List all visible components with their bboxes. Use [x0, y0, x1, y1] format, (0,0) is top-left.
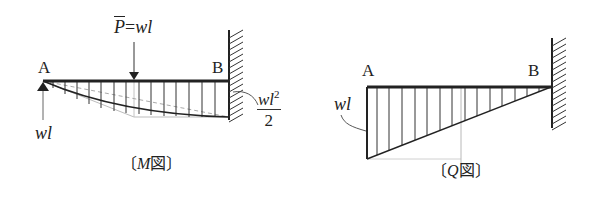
shear-value-label: wl [334, 95, 351, 113]
shear-diagonal [367, 87, 551, 159]
reaction-label: wl [35, 124, 52, 142]
fixed-end-moment-numerator: wl2 [257, 89, 281, 110]
shear-label-leader [341, 115, 366, 131]
shear-caption: 〔Q図〕 [431, 163, 491, 179]
fixed-end-moment-denominator: 2 [257, 110, 281, 129]
load-label: P=wl [114, 18, 152, 36]
moment-label-b: B [212, 59, 223, 76]
load-arrow-head-icon [129, 72, 139, 80]
diagram-canvas [0, 0, 589, 200]
moment-diagram [37, 30, 258, 122]
moment-label-a: A [38, 59, 50, 76]
load-symbol: P [114, 17, 125, 37]
shear-hatching [377, 87, 539, 155]
shear-label-b: B [528, 62, 539, 79]
moment-caption: 〔M図〕 [121, 156, 182, 172]
wall-hatching-shear [552, 38, 566, 130]
shear-diagram [341, 38, 566, 164]
moment-dashed-chord [43, 81, 229, 117]
shear-label-a: A [362, 62, 374, 79]
load-equals: = [125, 17, 135, 37]
load-value: wl [135, 17, 152, 37]
fixed-end-moment-label: wl2 2 [257, 89, 281, 129]
wall-hatching [229, 30, 243, 122]
